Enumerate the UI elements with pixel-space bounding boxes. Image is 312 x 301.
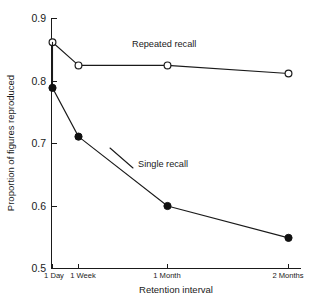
x-tick-label-1: 1 Week — [70, 271, 96, 280]
chart-container: 0.5 0.6 0.7 0.8 0.9 1 Day 1 Week 1 Month… — [0, 0, 312, 301]
data-point-open — [285, 70, 292, 77]
data-point-open — [75, 62, 82, 69]
data-point-open — [164, 62, 171, 69]
repeated-recall-label: Repeated recall — [132, 39, 196, 49]
x-tick-label-3: 2 Months — [272, 271, 303, 280]
single-recall-label: Single recall — [138, 159, 188, 169]
y-tick-label-1: 0.6 — [31, 200, 46, 212]
line-chart: 0.5 0.6 0.7 0.8 0.9 1 Day 1 Week 1 Month… — [0, 0, 312, 301]
x-tick-label-0: 1 Day — [44, 271, 64, 280]
data-point-filled — [164, 202, 171, 209]
y-tick-label-2: 0.7 — [31, 137, 46, 149]
data-point-filled — [75, 133, 82, 140]
y-tick-label-4: 0.9 — [31, 12, 46, 24]
y-axis-title: Proportion of figures reproduced — [5, 75, 16, 211]
x-tick-label-2: 1 Month — [153, 271, 180, 280]
x-axis-title: Retention interval — [139, 284, 213, 295]
data-point-filled — [49, 84, 56, 91]
data-point-filled — [285, 234, 292, 241]
y-tick-label-3: 0.8 — [31, 75, 46, 87]
